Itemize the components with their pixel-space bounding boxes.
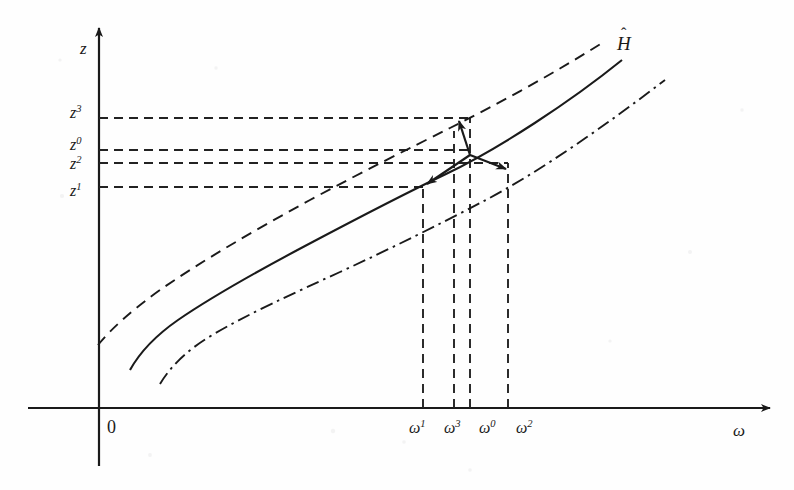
y-tick-z2: z2	[70, 155, 82, 172]
y-tick-z2-sup: 2	[76, 154, 81, 165]
horizontal-guides	[99, 118, 508, 187]
x-tick-w0-base: ω	[479, 419, 490, 436]
y-tick-z1: z1	[70, 182, 82, 199]
vertical-guides	[423, 118, 508, 408]
hysteresis-bound-diagram: z ω 0 z3 z0 z2 z1 ω1 ω3 ω0 ω2 ˆ H	[0, 0, 794, 490]
nominal-curve	[130, 60, 622, 370]
origin-label: 0	[107, 418, 116, 436]
y-tick-z3-sup: 3	[76, 103, 81, 114]
x-tick-w3-base: ω	[444, 419, 455, 436]
x-tick-w2-base: ω	[516, 419, 527, 436]
upper-bound-curve	[98, 43, 602, 345]
x-tick-w1-base: ω	[409, 419, 420, 436]
x-tick-w1-sup: 1	[420, 418, 425, 429]
y-tick-z3: z3	[70, 104, 82, 121]
diagram-canvas	[0, 0, 794, 490]
x-tick-w2: ω2	[516, 419, 533, 436]
curve-label-h-hat: ˆ H	[617, 34, 631, 53]
y-tick-z0: z0	[70, 136, 82, 153]
arrow-down-left	[427, 155, 470, 184]
x-tick-w0-sup: 0	[490, 418, 495, 429]
axis-group	[28, 28, 770, 466]
y-tick-z1-sup: 1	[76, 181, 81, 192]
x-tick-w1: ω1	[409, 419, 426, 436]
arrow-right	[470, 155, 506, 169]
update-vectors	[427, 121, 506, 184]
x-axis-label: ω	[733, 422, 745, 439]
x-tick-w2-sup: 2	[527, 418, 532, 429]
x-tick-w0: ω0	[479, 419, 496, 436]
hat-accent: ˆ	[621, 26, 626, 42]
y-tick-z0-sup: 0	[76, 135, 81, 146]
x-tick-w3-sup: 3	[455, 418, 460, 429]
lower-bound-curve	[160, 80, 665, 384]
x-tick-w3: ω3	[444, 419, 461, 436]
y-axis-label: z	[80, 40, 87, 57]
